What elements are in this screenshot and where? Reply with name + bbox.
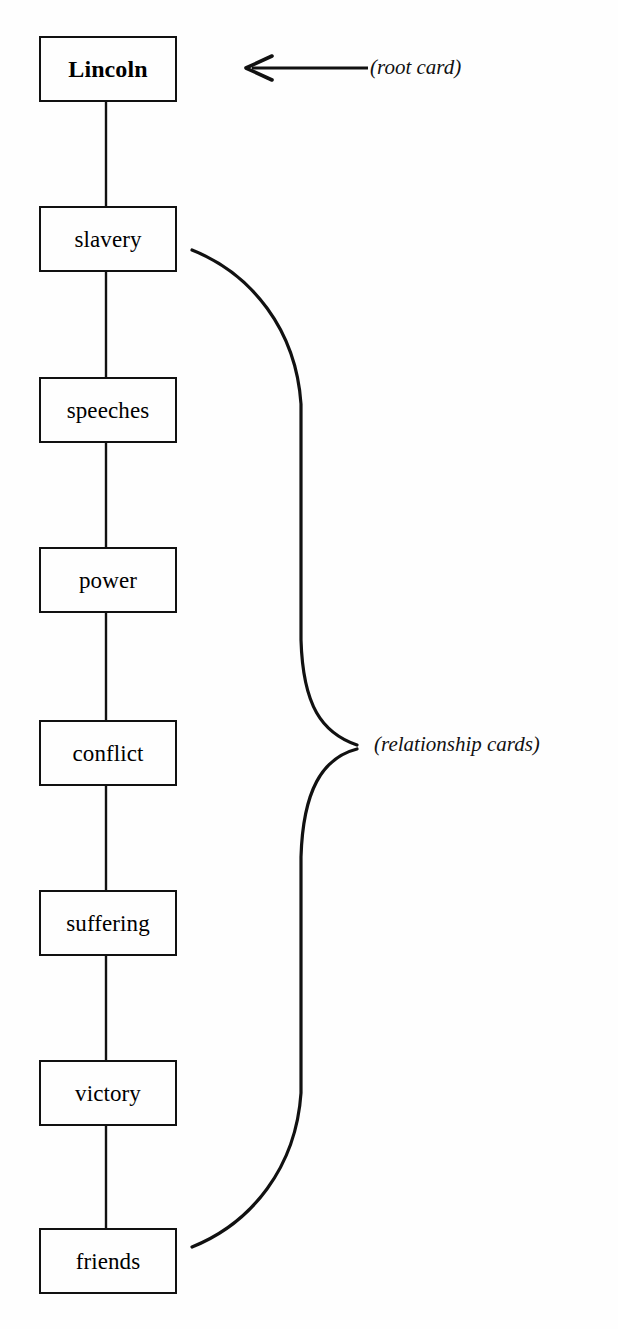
card-speeches[interactable]: speeches	[39, 377, 177, 443]
annotation-relationship-cards: (relationship cards)	[374, 734, 540, 755]
card-label-speeches: speeches	[67, 399, 150, 422]
card-lincoln[interactable]: Lincoln	[39, 36, 177, 102]
annotation-root-card: (root card)	[370, 57, 461, 78]
card-label-conflict: conflict	[72, 742, 143, 765]
relationship-brace-upper-arm	[192, 250, 357, 745]
card-label-victory: victory	[75, 1082, 141, 1105]
card-label-slavery: slavery	[74, 228, 141, 251]
card-suffering[interactable]: suffering	[39, 890, 177, 956]
card-slavery[interactable]: slavery	[39, 206, 177, 272]
relationship-cards-brace	[192, 250, 357, 1247]
card-friends[interactable]: friends	[39, 1228, 177, 1294]
card-label-friends: friends	[76, 1250, 141, 1273]
card-power[interactable]: power	[39, 547, 177, 613]
relationship-brace-lower-arm	[192, 749, 357, 1247]
card-victory[interactable]: victory	[39, 1060, 177, 1126]
card-label-lincoln: Lincoln	[68, 57, 147, 81]
diagram-connectors-layer	[0, 0, 618, 1329]
card-conflict[interactable]: conflict	[39, 720, 177, 786]
card-label-suffering: suffering	[66, 912, 150, 935]
card-label-power: power	[79, 569, 137, 592]
root-card-arrow	[246, 56, 368, 80]
diagram-canvas: Lincoln slavery speeches power conflict …	[0, 0, 618, 1329]
